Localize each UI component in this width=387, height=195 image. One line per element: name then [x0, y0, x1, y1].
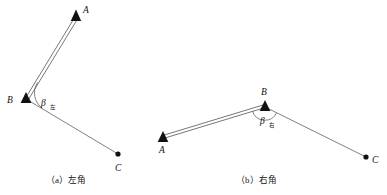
- point-marker-c-right: [363, 154, 368, 159]
- caption-panel-b: （b）右角: [236, 173, 277, 186]
- caption-panel-b-text: 右角: [259, 175, 277, 185]
- point-label-c-right: C: [372, 155, 379, 165]
- point-marker-c: [115, 151, 120, 156]
- point-label-c: C: [115, 163, 122, 173]
- angle-diagram-svg: A B C β 左: [0, 0, 387, 195]
- caption-panel-a: （a）左角: [46, 173, 86, 186]
- point-label-b: B: [7, 95, 13, 105]
- caption-panel-a-prefix: （a）: [46, 175, 68, 185]
- segment-b-to-a-double-right: [162, 105, 265, 139]
- caption-panel-a-text: 左角: [68, 175, 86, 185]
- caption-panel-b-prefix: （b）: [236, 175, 259, 185]
- angle-subscript-left: 左: [50, 103, 56, 110]
- figure-container: A B C β 左: [0, 0, 387, 195]
- panel-a-group: A B C β 左: [7, 5, 122, 173]
- panel-b-group: A B C β 右: [158, 87, 379, 165]
- angle-label-beta-left: β 左: [40, 98, 56, 110]
- segment-b-to-a-double: [25, 18, 78, 102]
- angle-symbol-beta: β: [40, 98, 46, 108]
- segment-b-to-c-single: [26, 99, 118, 154]
- angle-subscript-right: 右: [269, 121, 275, 129]
- point-marker-a-right: [158, 131, 169, 142]
- point-marker-a: [71, 10, 81, 22]
- point-label-a-right: A: [158, 145, 165, 155]
- point-label-b-right: B: [261, 87, 267, 97]
- point-label-a: A: [82, 5, 89, 15]
- angle-symbol-beta-right: β: [259, 116, 265, 126]
- segment-b-to-c-single-right: [265, 107, 366, 157]
